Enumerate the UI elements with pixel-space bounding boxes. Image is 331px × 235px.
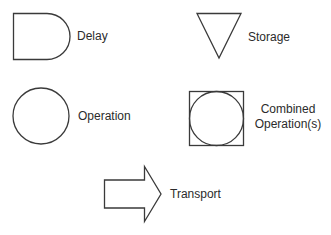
combined-operation-circle: [190, 92, 244, 146]
combined-operation-label: Combined Operation(s): [252, 102, 324, 132]
storage-label: Storage: [248, 30, 290, 45]
delay-shape: [14, 14, 71, 60]
operation-label: Operation: [78, 109, 131, 124]
transport-label: Transport: [170, 187, 221, 202]
delay-label: Delay: [77, 29, 108, 44]
transport-arrow-shape: [105, 167, 162, 222]
combined-label-line2: Operation(s): [252, 117, 324, 132]
combined-label-line1: Combined: [252, 102, 324, 117]
storage-shape: [197, 14, 241, 59]
operation-shape: [13, 88, 69, 144]
